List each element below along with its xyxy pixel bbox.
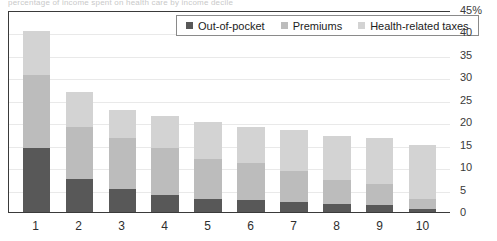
chart-legend: Out-of-pocketPremiumsHealth-related taxe…: [176, 15, 479, 36]
bar-segment-health-related-taxes[interactable]: [151, 116, 178, 147]
x-axis-tick-label: 5: [186, 215, 229, 239]
bar-segment-premiums[interactable]: [109, 138, 136, 189]
bar-stack[interactable]: [366, 138, 393, 212]
bar-segment-out-of-pocket[interactable]: [323, 204, 350, 212]
bar-segment-premiums[interactable]: [323, 180, 350, 204]
bar-group: [101, 12, 144, 212]
bar-segment-premiums[interactable]: [23, 75, 50, 148]
bar-stack[interactable]: [109, 110, 136, 212]
bar-segment-premiums[interactable]: [66, 127, 93, 179]
bar-segment-health-related-taxes[interactable]: [323, 136, 350, 180]
legend-label: Out-of-pocket: [198, 20, 265, 32]
y-axis-tick-label: 30: [460, 72, 472, 83]
y-axis-tick-label: 0: [460, 207, 466, 218]
bar-stack[interactable]: [323, 136, 350, 212]
bar-stack[interactable]: [66, 92, 93, 212]
bar-segment-health-related-taxes[interactable]: [280, 130, 307, 171]
x-axis-tick-label: 10: [401, 215, 444, 239]
bar-segment-out-of-pocket[interactable]: [66, 179, 93, 212]
x-axis-tick-label: 4: [143, 215, 186, 239]
bar-segment-health-related-taxes[interactable]: [109, 110, 136, 138]
bar-segment-out-of-pocket[interactable]: [194, 199, 221, 212]
y-axis-tick-label: 5: [460, 185, 466, 196]
bar-segment-out-of-pocket[interactable]: [366, 205, 393, 212]
y-axis-tick-label: 10: [460, 162, 472, 173]
bar-segment-health-related-taxes[interactable]: [237, 127, 264, 163]
x-axis: 12345678910: [8, 215, 450, 239]
bar-group: [315, 12, 358, 212]
y-axis-tick-label: 15: [460, 140, 472, 151]
top-caption-clipped: percentage of income spent on health car…: [8, 0, 468, 7]
x-axis-tick-label: 9: [358, 215, 401, 239]
bar-segment-premiums[interactable]: [194, 159, 221, 199]
x-axis-tick-label: 6: [229, 215, 272, 239]
bar-segment-premiums[interactable]: [409, 199, 436, 209]
y-axis: 45%4035302520151050: [452, 0, 497, 241]
bar-group: [15, 12, 58, 212]
bars-layer: [9, 12, 450, 212]
bar-segment-out-of-pocket[interactable]: [409, 209, 436, 212]
x-axis-tick-label: 7: [272, 215, 315, 239]
bar-segment-premiums[interactable]: [237, 163, 264, 200]
x-axis-tick-label: 8: [315, 215, 358, 239]
y-axis-tick-label: 45%: [460, 5, 482, 16]
bar-group: [358, 12, 401, 212]
bar-stack[interactable]: [151, 116, 178, 212]
bar-segment-premiums[interactable]: [151, 148, 178, 195]
bar-group: [401, 12, 444, 212]
bar-segment-health-related-taxes[interactable]: [366, 138, 393, 184]
bar-segment-out-of-pocket[interactable]: [151, 195, 178, 213]
bar-segment-health-related-taxes[interactable]: [66, 92, 93, 127]
bar-segment-out-of-pocket[interactable]: [23, 148, 50, 212]
x-axis-tick-label: 2: [57, 215, 100, 239]
bar-segment-out-of-pocket[interactable]: [237, 200, 264, 212]
x-axis-tick-label: 3: [100, 215, 143, 239]
bar-group: [58, 12, 101, 212]
stacked-bar-chart: percentage of income spent on health car…: [0, 0, 497, 241]
bar-segment-out-of-pocket[interactable]: [280, 202, 307, 212]
x-axis-tick-label: 1: [14, 215, 57, 239]
bar-segment-premiums[interactable]: [366, 184, 393, 205]
bar-segment-out-of-pocket[interactable]: [109, 189, 136, 212]
y-axis-tick-label: 20: [460, 117, 472, 128]
bar-stack[interactable]: [23, 31, 50, 212]
bar-stack[interactable]: [280, 130, 307, 212]
bar-stack[interactable]: [409, 145, 436, 212]
bar-segment-premiums[interactable]: [280, 171, 307, 202]
bar-segment-health-related-taxes[interactable]: [23, 31, 50, 75]
bar-group: [187, 12, 230, 212]
legend-label: Premiums: [293, 20, 343, 32]
bar-segment-health-related-taxes[interactable]: [409, 145, 436, 200]
y-axis-tick-label: 35: [460, 50, 472, 61]
bar-segment-health-related-taxes[interactable]: [194, 122, 221, 159]
bar-stack[interactable]: [194, 122, 221, 212]
y-axis-tick-label: 25: [460, 95, 472, 106]
plot-area: [8, 11, 450, 213]
y-axis-tick-label: 40: [460, 27, 472, 38]
bar-stack[interactable]: [237, 127, 264, 212]
legend-swatch-icon: [186, 22, 193, 29]
bar-group: [230, 12, 273, 212]
bar-group: [144, 12, 187, 212]
bar-group: [272, 12, 315, 212]
legend-item[interactable]: Premiums: [281, 20, 343, 32]
legend-swatch-icon: [358, 22, 365, 29]
legend-swatch-icon: [281, 22, 288, 29]
legend-item[interactable]: Out-of-pocket: [186, 20, 265, 32]
